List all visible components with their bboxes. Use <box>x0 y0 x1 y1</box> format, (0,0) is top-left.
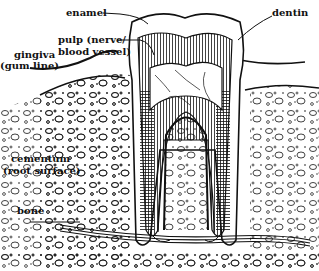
label-bone: bone <box>17 205 44 216</box>
label-dentin: dentin <box>272 7 308 18</box>
tooth-anatomy-diagram: enamel dentin pulp (nerve/ blood vessel)… <box>0 0 319 271</box>
label-gingiva-line2: (gum line) <box>0 60 59 71</box>
label-pulp-line1: pulp (nerve/ <box>58 34 126 45</box>
label-gingiva-line1: gingiva <box>14 49 55 60</box>
label-cementum-line1: cementum <box>11 153 70 164</box>
label-cementum-line2: (root surface) <box>3 165 81 176</box>
label-enamel: enamel <box>66 7 107 18</box>
label-pulp-line2: blood vessel) <box>58 46 131 57</box>
tooth-illustration <box>0 0 319 271</box>
